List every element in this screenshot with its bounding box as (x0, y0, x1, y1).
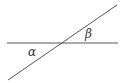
angle-beta-label: β (84, 27, 92, 41)
angle-alpha-label: α (28, 45, 36, 59)
angle-diagram: α β (0, 0, 123, 83)
